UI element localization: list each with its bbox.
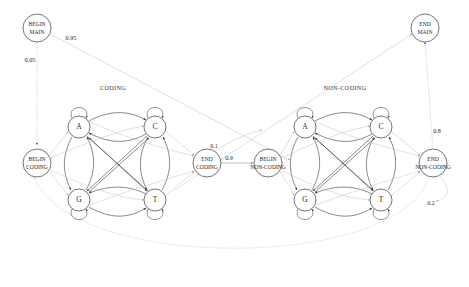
node-coding-a-label: A — [76, 122, 82, 131]
node-begin-noncoding-line1: BEGIN — [259, 156, 276, 162]
node-coding-c[interactable]: C — [144, 116, 166, 138]
node-coding-t-label: T — [153, 195, 158, 204]
node-end-noncoding[interactable]: END NON-CODING — [415, 149, 451, 177]
node-begin-coding-line2: CODING — [26, 164, 48, 170]
node-begin-coding[interactable]: BEGIN CODING — [23, 149, 51, 177]
node-end-main-line1: END — [419, 21, 431, 27]
node-coding-g[interactable]: G — [68, 189, 90, 211]
node-begin-main[interactable]: BEGIN MAIN — [23, 14, 51, 42]
prob-label-end-coding-upper: 0.1 — [210, 142, 218, 149]
group-title-noncoding: NON-CODING — [323, 84, 366, 91]
group-title-noncoding-text: NON-CODING — [323, 84, 366, 91]
node-begin-main-line2: MAIN — [30, 29, 45, 35]
node-noncoding-t[interactable]: T — [370, 189, 392, 211]
node-noncoding-c[interactable]: C — [370, 116, 392, 138]
node-coding-t[interactable]: T — [144, 189, 166, 211]
prob-label-end-noncoding-to-end-main: 0.8 — [433, 127, 441, 134]
prob-label-begin-main-begin-coding: 0.05 — [25, 56, 36, 63]
node-begin-noncoding[interactable]: BEGIN NON-CODING — [250, 149, 286, 177]
edge-begin-main-to-noncoding-cluster — [50, 34, 290, 160]
prob-label-end-noncoding-loop-back: 0.2 — [427, 199, 435, 206]
node-begin-noncoding-line2: NON-CODING — [250, 164, 286, 170]
edges-bases-to-end-coding — [90, 122, 194, 205]
node-noncoding-g[interactable]: G — [294, 189, 316, 211]
node-coding-c-label: C — [152, 122, 157, 131]
node-end-coding-line1: END — [201, 156, 213, 162]
diagram-canvas: CODING NON-CODING BEGIN MAIN END MAIN BE… — [0, 0, 469, 287]
edges-bases-to-end-noncoding — [316, 122, 420, 205]
hmm-state-diagram: CODING NON-CODING BEGIN MAIN END MAIN BE… — [0, 0, 469, 287]
prob-label-end-coding-to-begin-noncoding: 0.9 — [225, 154, 233, 161]
edges-begin-coding-to-bases — [49, 126, 144, 200]
node-coding-a[interactable]: A — [68, 116, 90, 138]
node-coding-g-label: G — [76, 195, 82, 204]
node-begin-main-line1: BEGIN — [28, 21, 45, 27]
group-title-coding: CODING — [100, 84, 126, 91]
node-end-main-line2: MAIN — [418, 29, 433, 35]
node-begin-coding-line1: BEGIN — [28, 156, 45, 162]
node-end-coding[interactable]: END CODING — [193, 149, 221, 177]
node-noncoding-c-label: C — [378, 122, 383, 131]
node-end-main[interactable]: END MAIN — [411, 14, 439, 42]
prob-label-begin-main-coding: 0.95 — [66, 34, 77, 41]
node-noncoding-a[interactable]: A — [294, 116, 316, 138]
edge-end-noncoding-back-loop — [436, 176, 447, 201]
node-noncoding-a-label: A — [302, 122, 308, 131]
node-noncoding-g-label: G — [302, 195, 308, 204]
node-end-coding-line2: CODING — [196, 164, 218, 170]
node-noncoding-t-label: T — [379, 195, 384, 204]
node-end-noncoding-line1: END — [427, 156, 439, 162]
edge-end-noncoding-to-end-main — [425, 42, 433, 149]
group-title-coding-text: CODING — [100, 84, 126, 91]
node-end-noncoding-line2: NON-CODING — [415, 164, 451, 170]
